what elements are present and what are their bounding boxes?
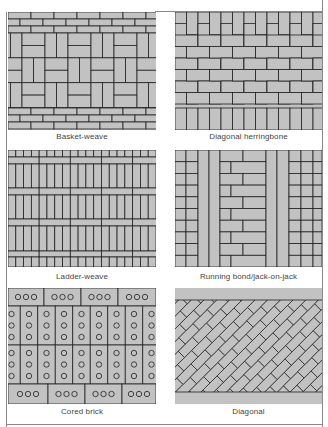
cored-brick-pattern: [8, 288, 156, 404]
diagonal-herringbone-pattern: [175, 12, 322, 130]
panel-cored-brick: [8, 288, 156, 404]
caption-cored-brick: Cored brick: [8, 407, 156, 416]
panel-diagonal: [175, 288, 322, 404]
frame-top-right: [322, 0, 323, 427]
caption-ladder-weave: Ladder-weave: [8, 272, 156, 281]
diagonal-pattern: [175, 288, 322, 404]
panel-running-bond: [175, 150, 322, 267]
caption-basket-weave: Basket-weave: [8, 132, 156, 141]
frame-bottom: [6, 424, 323, 425]
caption-running-bond: Running bond/jack-on-jack: [175, 272, 322, 281]
panel-diagonal-herringbone: [175, 12, 322, 130]
ladder-weave-pattern: [8, 150, 156, 267]
running-bond-pattern: [175, 150, 322, 267]
basket-weave-pattern: [8, 12, 156, 130]
panel-ladder-weave: [8, 150, 156, 267]
caption-diagonal-herringbone: Diagonal herringbone: [175, 132, 322, 141]
panel-basket-weave: [8, 12, 156, 130]
frame-top-left: [6, 12, 7, 427]
caption-diagonal: Diagonal: [175, 407, 322, 416]
